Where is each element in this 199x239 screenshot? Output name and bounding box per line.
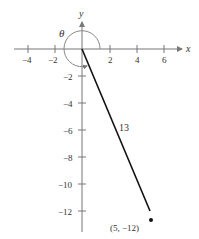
segment-length-label: 13 <box>119 122 129 133</box>
point-label: (5, −12) <box>110 223 139 233</box>
x-tick-label: 4 <box>135 55 140 65</box>
x-tick-label: −4 <box>22 55 32 65</box>
x-tick-label: 2 <box>108 55 113 65</box>
terminal-side-segment <box>82 49 150 211</box>
y-tick-label: −2 <box>63 72 73 82</box>
y-tick-label: −10 <box>58 180 73 190</box>
y-tick-label: −8 <box>63 153 73 163</box>
y-tick-label: −12 <box>58 207 72 217</box>
point-marker <box>149 218 153 222</box>
y-tick-label: −4 <box>63 99 73 109</box>
x-tick-label: 6 <box>162 55 167 65</box>
coordinate-diagram: x y −4 −2 2 4 6 −2 −4 −6 −8 −10 −12 θ 13… <box>0 0 199 239</box>
y-axis-label: y <box>78 8 84 19</box>
angle-label: θ <box>59 27 65 39</box>
y-tick-label: −6 <box>63 126 73 136</box>
x-tick-label: −2 <box>48 55 58 65</box>
x-axis-label: x <box>185 43 191 54</box>
